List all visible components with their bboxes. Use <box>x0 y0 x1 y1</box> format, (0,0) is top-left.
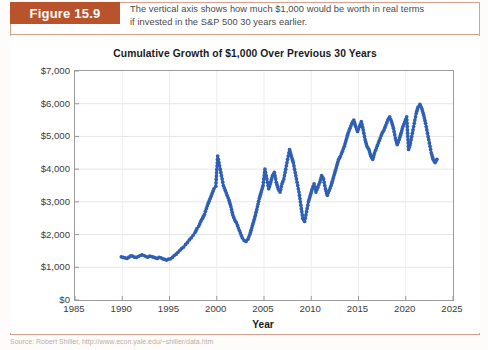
x-axis-tick-label: 2025 <box>441 303 462 314</box>
figure-caption-line-1: The vertical axis shows how much $1,000 … <box>130 3 476 16</box>
figure-caption-line-2: if invested in the S&P 500 30 years earl… <box>130 16 476 29</box>
x-axis-tick-label: 2000 <box>205 303 226 314</box>
figure-root: Figure 15.9 The vertical axis shows how … <box>0 0 488 350</box>
x-axis-tick-label: 1995 <box>158 303 179 314</box>
x-axis-tick-label: 1990 <box>111 303 132 314</box>
x-axis-tick-label: 2020 <box>394 303 415 314</box>
chart-container: Cumulative Growth of $1,000 Over Previou… <box>10 36 480 333</box>
plot-area <box>74 70 454 301</box>
chart-plot-svg <box>75 71 453 300</box>
series-line <box>121 104 437 260</box>
figure-header: Figure 15.9 The vertical axis shows how … <box>10 2 480 36</box>
x-axis-tick-label: 2015 <box>347 303 368 314</box>
figure-number-badge: Figure 15.9 <box>10 2 120 24</box>
x-axis-tick-label: 2005 <box>252 303 273 314</box>
x-axis-tick-label: 2010 <box>300 303 321 314</box>
figure-caption: The vertical axis shows how much $1,000 … <box>130 3 476 28</box>
header-divider <box>10 34 480 35</box>
series-markers <box>119 103 438 262</box>
x-axis-title: Year <box>74 319 452 330</box>
x-axis-tick-label: 1985 <box>63 303 84 314</box>
figure-source-note: Source: Robert Shiller, http://www.econ.… <box>10 338 480 348</box>
